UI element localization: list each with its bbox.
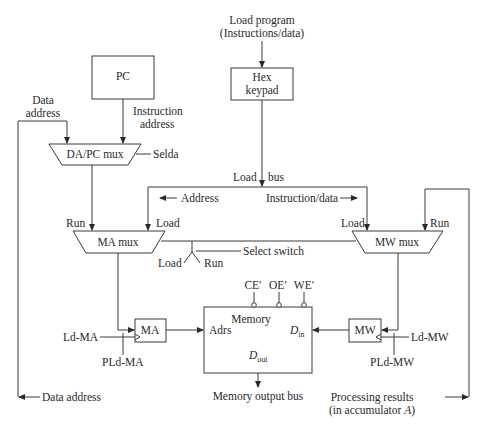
hex-keypad-label-line2: keypad [245,84,278,97]
mw-mux: MW mux [352,231,443,253]
ma-register-label: MA [141,324,160,336]
ma-mux-to-ma-register [118,253,134,330]
pld-ma-label: PLd-MA [102,356,144,368]
processing-results-sublabel: (in accumulator A) [329,404,415,417]
ma-register: MA [135,319,166,342]
memory-block: Memory Adrs Din Dout [204,307,312,373]
instruction-address-sublabel: address [140,118,175,130]
mw-mux-load-label: Load [341,217,365,229]
ce-label: CE′ [244,279,261,291]
we-inversion-bubble [302,303,307,308]
hex-keypad-label-line1: Hex [252,71,271,83]
da-pc-mux-label: DA/PC mux [66,148,123,160]
selda-label: Selda [153,148,179,160]
load-program-sublabel: (Instructions/data) [220,27,304,40]
mw-mux-run-label: Run [430,217,449,229]
instruction-address-label: Instruction [133,105,183,117]
processing-results-label: Processing results [331,391,414,404]
select-switch-load-leg [184,252,192,263]
data-address-bottom-label: Data address [42,391,102,403]
mw-mux-label: MW mux [375,236,419,248]
data-address-top-sublabel: address [26,107,61,119]
oe-label: OE′ [269,279,287,291]
da-pc-mux: DA/PC mux [49,144,141,165]
memory-adrs-label: Adrs [209,324,232,336]
data-address-input-line [18,121,67,397]
oe-inversion-bubble [277,303,282,308]
pld-mw-label: PLd-MW [370,356,414,368]
mw-register-label: MW [354,324,375,336]
ma-mux-load-label: Load [156,217,180,229]
ma-mux: MA mux [73,231,165,253]
load-bus-load-label: Load [233,171,257,183]
ma-mux-label: MA mux [97,236,138,248]
switch-load-label: Load [158,257,182,269]
mw-register: MW [349,319,381,342]
ma-mux-run-label: Run [66,217,85,229]
load-program-label: Load program [229,14,295,27]
memory-load-block-diagram: Load program (Instructions/data) PC Hex … [0,0,486,428]
pc-label: PC [116,70,130,82]
address-label: Address [181,192,219,204]
mw-mux-to-mw-register [382,253,398,330]
select-switch-run-leg [192,252,200,263]
ld-ma-label: Ld-MA [63,331,99,343]
data-address-top-label: Data [32,94,54,106]
ce-inversion-bubble [252,303,257,308]
select-switch-label: Select switch [243,245,304,257]
pc-block: PC [92,56,154,99]
memory-label: Memory [231,313,271,326]
memory-output-bus-label: Memory output bus [213,390,304,403]
switch-run-label: Run [204,257,223,269]
instruction-data-label: Instruction/data [266,192,338,204]
we-label: WE′ [294,279,314,291]
load-bus-bus-label: bus [268,171,285,183]
hex-keypad-block: Hex keypad [231,68,293,100]
ld-mw-label: Ld-MW [411,331,449,343]
